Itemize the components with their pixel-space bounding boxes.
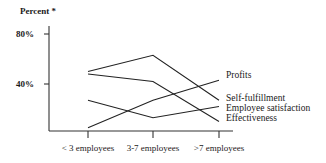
series-label-profits: Profits — [226, 70, 252, 80]
axes: 80%40%< 3 employees3-7 employees>7 emplo… — [16, 26, 245, 153]
series-label-self-fulfillment: Self-fulfillment — [226, 93, 285, 103]
series-group — [88, 55, 219, 128]
series-line-self-fulfillment — [88, 55, 219, 100]
series-line-effectiveness — [88, 74, 219, 122]
y-axis-label: Percent * — [20, 6, 57, 16]
series-label-effectiveness: Effectiveness — [226, 113, 277, 123]
y-tick-label: 80% — [16, 29, 34, 39]
x-tick-label: 3-7 employees — [127, 143, 180, 153]
x-tick-label: < 3 employees — [62, 143, 115, 153]
x-tick-label: >7 employees — [194, 143, 245, 153]
line-chart: Percent * 80%40%< 3 employees3-7 employe… — [0, 0, 326, 163]
series-label-employee-satisfaction: Employee satisfaction — [226, 103, 310, 113]
series-labels: ProfitsSelf-fulfillmentEmployee satisfac… — [226, 70, 310, 123]
y-tick-label: 40% — [16, 79, 34, 89]
